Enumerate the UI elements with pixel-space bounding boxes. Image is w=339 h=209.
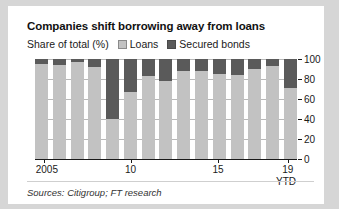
- bar-2015[interactable]: [213, 59, 226, 159]
- y-axis-tick: [298, 99, 302, 100]
- bar-segment-loans: [284, 88, 297, 159]
- y-axis-label-60: 60: [304, 94, 315, 105]
- bar-segment-loans: [71, 62, 84, 159]
- y-axis-label-0: 0: [304, 154, 310, 165]
- bar-2007[interactable]: [71, 59, 84, 159]
- bar-2008[interactable]: [88, 59, 101, 159]
- bar-2005[interactable]: [35, 59, 48, 159]
- legend-label-secured-bonds: Secured bonds: [179, 38, 250, 50]
- y-axis-tick: [298, 139, 302, 140]
- y-axis-label-80: 80: [304, 74, 315, 85]
- chart-subtitle: Share of total (%): [27, 38, 109, 50]
- bar-series-container: [35, 59, 297, 159]
- bar-segment-loans: [106, 119, 119, 159]
- legend-label-loans: Loans: [130, 38, 159, 50]
- bar-segment-secured-bonds: [231, 59, 244, 75]
- bar-segment-secured-bonds: [248, 59, 261, 69]
- bar-19-YTD[interactable]: [284, 59, 297, 159]
- bar-segment-loans: [248, 69, 261, 159]
- bar-2013[interactable]: [177, 59, 190, 159]
- bar-segment-secured-bonds: [88, 59, 101, 67]
- x-axis-label-10: 10: [125, 164, 136, 175]
- bar-segment-loans: [159, 81, 172, 159]
- chart-card: Companies shift borrowing away from loan…: [8, 6, 324, 204]
- bar-segment-loans: [142, 76, 155, 159]
- x-axis-tick: [218, 159, 219, 163]
- bar-2010[interactable]: [124, 59, 137, 159]
- bar-segment-loans: [35, 64, 48, 159]
- bar-segment-secured-bonds: [177, 59, 190, 71]
- bar-segment-loans: [124, 92, 137, 159]
- bar-2018[interactable]: [266, 59, 279, 159]
- bar-segment-loans: [266, 66, 279, 159]
- legend-item-secured-bonds: Secured bonds: [167, 38, 250, 50]
- y-axis-label-20: 20: [304, 134, 315, 145]
- y-axis-tick: [298, 119, 302, 120]
- x-axis-tick: [131, 159, 132, 163]
- bar-segment-loans: [231, 75, 244, 159]
- x-axis-tick: [44, 159, 45, 163]
- bar-segment-secured-bonds: [106, 59, 119, 119]
- bar-segment-loans: [177, 71, 190, 159]
- x-axis-line: [35, 159, 297, 160]
- bar-segment-secured-bonds: [159, 59, 172, 81]
- bar-2011[interactable]: [142, 59, 155, 159]
- bar-segment-secured-bonds: [213, 59, 226, 74]
- sources-note: Sources: Citigroup; FT research: [27, 187, 162, 198]
- bar-2016[interactable]: [231, 59, 244, 159]
- bar-segment-secured-bonds: [284, 59, 297, 88]
- legend-swatch-secured-bonds-icon: [167, 40, 176, 49]
- bar-segment-loans: [88, 67, 101, 159]
- bar-segment-secured-bonds: [266, 59, 279, 66]
- bar-2017[interactable]: [248, 59, 261, 159]
- bar-segment-loans: [195, 71, 208, 159]
- chart-legend: Share of total (%) Loans Secured bonds: [27, 37, 259, 51]
- bar-2009[interactable]: [106, 59, 119, 159]
- divider: [27, 181, 314, 182]
- y-axis-label-40: 40: [304, 114, 315, 125]
- bar-2012[interactable]: [159, 59, 172, 159]
- x-axis-tick: [288, 159, 289, 163]
- bar-segment-secured-bonds: [124, 59, 137, 92]
- x-axis-label-2005: 2005: [36, 164, 58, 175]
- y-axis-label-100: 100: [304, 54, 321, 65]
- x-axis-label-15: 15: [212, 164, 223, 175]
- legend-item-loans: Loans: [118, 38, 159, 50]
- bar-segment-loans: [213, 74, 226, 159]
- bar-2014[interactable]: [195, 59, 208, 159]
- bar-segment-loans: [53, 65, 66, 159]
- y-axis-tick: [298, 159, 302, 160]
- bar-segment-secured-bonds: [195, 59, 208, 71]
- bar-2006[interactable]: [53, 59, 66, 159]
- plot-area: [35, 59, 297, 159]
- chart-title: Companies shift borrowing away from loan…: [27, 20, 265, 32]
- y-axis-tick: [298, 59, 302, 60]
- bar-segment-secured-bonds: [142, 59, 155, 76]
- x-axis-label-19: 19: [282, 164, 293, 175]
- y-axis-tick: [298, 79, 302, 80]
- legend-swatch-loans-icon: [118, 40, 127, 49]
